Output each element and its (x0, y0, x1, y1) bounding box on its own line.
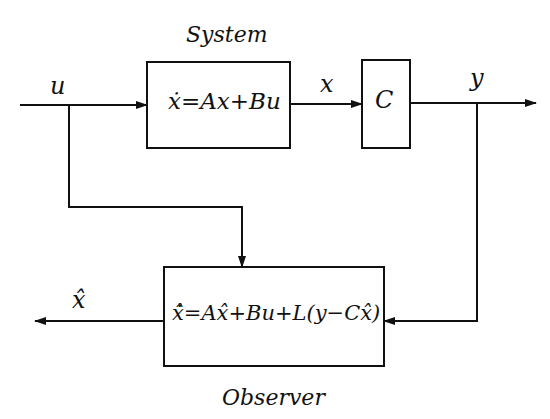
diagram-canvas (0, 0, 550, 419)
input-to-observer-arrow (69, 105, 242, 267)
output-matrix-label: C (375, 86, 393, 114)
signal-x-label: x (320, 70, 334, 98)
signal-u-label: u (50, 72, 65, 100)
signal-xhat-label: x̂ (72, 286, 86, 314)
output-feedback-arrow (384, 103, 477, 321)
signal-y-label: y (470, 64, 484, 92)
system-title: System (186, 22, 268, 47)
observer-title: Observer (222, 385, 325, 410)
observer-equation: x̂̇=Ax̂+Bu+L(y−Cx̂) (172, 301, 380, 325)
system-equation: ẋ=Ax+Bu (168, 88, 281, 114)
